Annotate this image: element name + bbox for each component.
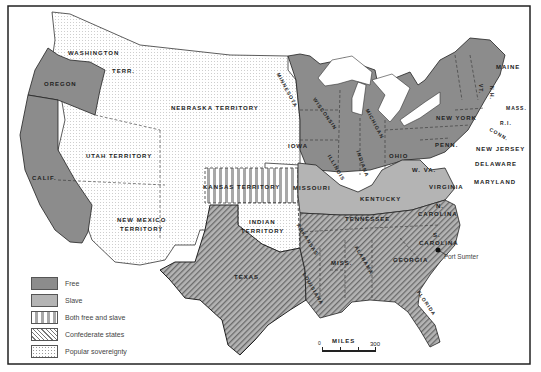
- label-new-jersey: NEW JERSEY: [476, 146, 525, 152]
- legend-label-confederate: Confederate states: [65, 331, 124, 338]
- legend-item-popular: Popular sovereignty: [31, 343, 171, 360]
- label-utah: UTAH TERRITORY: [86, 153, 152, 159]
- swatch-popular-icon: [31, 345, 58, 358]
- label-nebraska: NEBRASKA TERRITORY: [171, 105, 259, 111]
- label-indian-1: INDIAN: [249, 219, 276, 225]
- label-new-york: NEW YORK: [436, 115, 477, 121]
- label-north-carolina-2: CAROLINA: [418, 211, 458, 217]
- label-pennsylvania: PENN.: [435, 142, 458, 148]
- scale-label: MILES: [332, 338, 355, 344]
- label-georgia: GEORGIA: [393, 257, 428, 263]
- label-virginia: VIRGINIA: [429, 184, 464, 190]
- label-rhode-island: R.I.: [500, 121, 512, 126]
- label-california: CALIF.: [32, 175, 57, 181]
- swatch-confederate-icon: [31, 328, 58, 341]
- label-maryland: MARYLAND: [474, 179, 516, 185]
- legend-label-slave: Slave: [65, 297, 83, 304]
- map-scale: 0 MILES 300: [318, 338, 398, 358]
- label-tennessee: TENNESSEE: [345, 216, 390, 222]
- label-missouri: MISSOURI: [293, 185, 331, 191]
- scale-start: 0: [318, 341, 321, 346]
- label-washington: WASHINGTON: [68, 50, 119, 56]
- scale-tick: [322, 347, 323, 351]
- label-south-carolina-1: S.: [433, 232, 441, 238]
- scale-tick: [340, 347, 341, 351]
- label-indian-2: TERRITORY: [241, 228, 284, 234]
- label-delaware: DELAWARE: [475, 161, 517, 167]
- legend-label-both: Both free and slave: [65, 314, 125, 321]
- map-legend: Free Slave Both free and slave Confedera…: [31, 275, 171, 360]
- legend-item-slave: Slave: [31, 292, 171, 309]
- legend-item-both: Both free and slave: [31, 309, 171, 326]
- label-vermont: VT.: [478, 84, 483, 94]
- label-kentucky: KENTUCKY: [360, 196, 401, 202]
- legend-item-confederate: Confederate states: [31, 326, 171, 343]
- label-south-carolina-2: CAROLINA: [419, 240, 459, 246]
- label-maine: MAINE: [496, 64, 520, 70]
- label-ohio: OHIO: [389, 153, 408, 159]
- legend-label-free: Free: [65, 280, 79, 287]
- label-iowa: IOWA: [288, 143, 308, 149]
- legend-label-popular: Popular sovereignty: [65, 348, 127, 355]
- swatch-free-icon: [31, 277, 58, 290]
- label-fort-sumter: Fort Sumter: [444, 253, 478, 260]
- label-north-carolina-1: N.: [436, 203, 444, 209]
- label-washington-terr: TERR.: [112, 68, 135, 74]
- scale-bar: [322, 350, 376, 352]
- label-texas: TEXAS: [234, 274, 259, 280]
- swatch-both-icon: [31, 311, 58, 324]
- label-massachusetts: MASS.: [506, 106, 527, 111]
- label-new-mexico-1: NEW MEXICO: [117, 217, 166, 223]
- label-new-hampshire: N.H.: [489, 86, 494, 100]
- scale-tick: [375, 347, 376, 351]
- label-west-virginia: W. VA.: [412, 167, 436, 173]
- label-new-mexico-2: TERRITORY: [120, 226, 163, 232]
- swatch-slave-icon: [31, 294, 58, 307]
- label-kansas: KANSAS TERRITORY: [203, 184, 280, 190]
- label-mississippi: MISS.: [331, 260, 352, 266]
- label-oregon: OREGON: [44, 81, 77, 87]
- legend-item-free: Free: [31, 275, 171, 292]
- scale-tick: [358, 347, 359, 351]
